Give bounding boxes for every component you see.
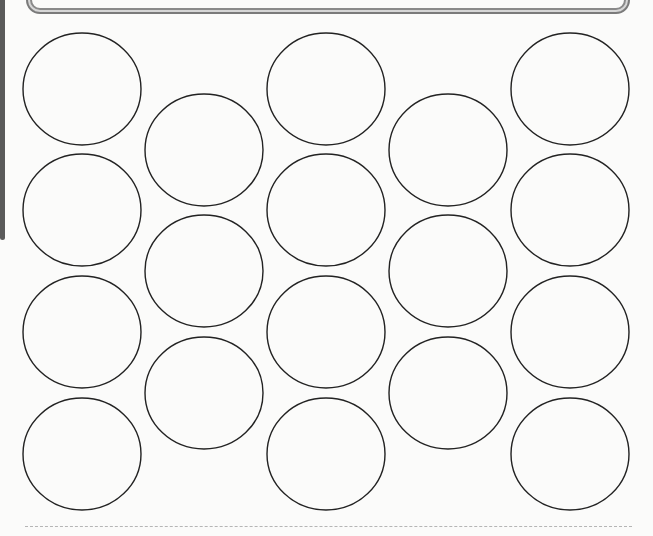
circle-outline bbox=[511, 33, 629, 145]
circle-outline bbox=[389, 337, 507, 449]
circle-outline bbox=[267, 33, 385, 145]
circle-outline bbox=[145, 337, 263, 449]
worksheet-page bbox=[0, 0, 653, 536]
circle-outline bbox=[511, 276, 629, 388]
circle-outline bbox=[145, 215, 263, 327]
circle-outline bbox=[511, 398, 629, 510]
circle-outline bbox=[23, 276, 141, 388]
circle-outline bbox=[267, 154, 385, 266]
circle-outline bbox=[389, 215, 507, 327]
circle-outline bbox=[389, 94, 507, 206]
circle-outline bbox=[511, 154, 629, 266]
circle-outline bbox=[145, 94, 263, 206]
circle-outline bbox=[267, 398, 385, 510]
dashed-cut-line bbox=[25, 526, 632, 527]
circle-outline bbox=[23, 154, 141, 266]
circle-grid bbox=[0, 0, 653, 536]
circle-outline bbox=[23, 398, 141, 510]
circle-outline bbox=[267, 276, 385, 388]
circle-outline bbox=[23, 33, 141, 145]
